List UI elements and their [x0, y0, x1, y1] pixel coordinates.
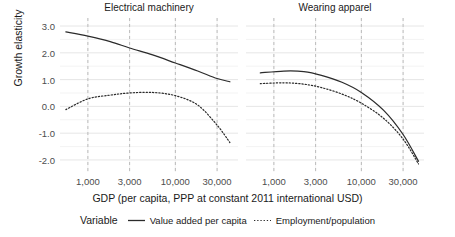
legend-item[interactable]: Value added per capita	[128, 215, 247, 226]
legend-item[interactable]: Employment/population	[254, 215, 375, 226]
y-tick-label: 1.0	[42, 74, 55, 85]
x-tick-label: 3,000	[304, 176, 328, 187]
x-tick-label: 10,000	[161, 176, 190, 187]
facet-strip-label-right: Wearing apparel	[246, 2, 424, 13]
series-line-dotted	[66, 92, 230, 142]
x-tick-label: 30,000	[389, 176, 418, 187]
legend-item-label: Value added per capita	[150, 215, 247, 226]
x-tick-label: 3,000	[118, 176, 142, 187]
x-tick-label: 10,000	[347, 176, 376, 187]
facet-panel-wearing-apparel: Wearing apparel	[246, 18, 424, 172]
legend-line-dotted-icon	[254, 216, 271, 225]
growth-elasticity-chart: Growth elasticity 3.02.01.00.0-1.0-2.0 E…	[0, 0, 455, 237]
legend-title: Variable	[80, 214, 118, 226]
y-tick-label: -2.0	[39, 154, 55, 165]
x-axis-title: GDP (per capita, PPP at constant 2011 in…	[0, 192, 455, 204]
x-tick-label: 1,000	[262, 176, 286, 187]
chart-legend: Variable Value added per capitaEmploymen…	[0, 214, 455, 226]
facet-plot-left	[60, 18, 238, 172]
legend-item-label: Employment/population	[276, 215, 375, 226]
y-tick-label: 2.0	[42, 47, 55, 58]
y-tick-label: -1.0	[39, 128, 55, 139]
facet-plot-right	[246, 18, 424, 172]
legend-line-solid-icon	[128, 216, 145, 225]
y-tick-label: 0.0	[42, 101, 55, 112]
x-tick-label: 1,000	[76, 176, 100, 187]
facet-panel-electrical-machinery: Electrical machinery	[60, 18, 238, 172]
y-tick-label: 3.0	[42, 21, 55, 32]
series-line-solid	[260, 71, 418, 161]
facet-strip-label-left: Electrical machinery	[60, 2, 238, 13]
x-tick-label: 30,000	[203, 176, 232, 187]
